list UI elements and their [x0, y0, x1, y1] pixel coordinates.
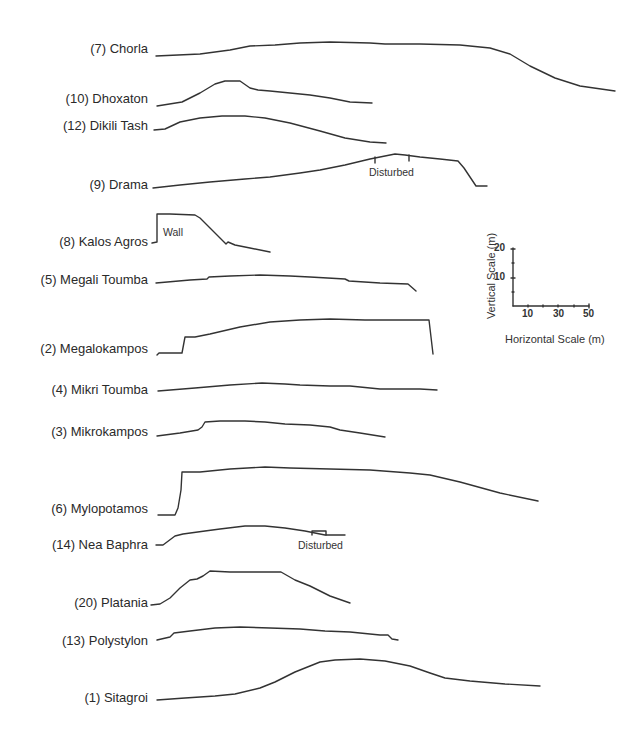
profile-dhoxaton	[157, 81, 372, 106]
scale-htick-label-30: 30	[553, 308, 564, 319]
kalos-agros-wall-label: Wall	[163, 226, 183, 238]
profile-drama	[153, 154, 487, 188]
profiles-figure: (7) Chorla (10) Dhoxaton (12) Dikili Tas…	[0, 0, 642, 744]
profile-chorla	[156, 42, 615, 91]
profile-megali-toumba	[156, 275, 416, 291]
profile-polystylon	[157, 627, 398, 640]
profile-sitagroi	[157, 659, 540, 700]
profile-mikri-toumba	[158, 383, 437, 391]
nea-baphra-disturbed-label: Disturbed	[298, 539, 343, 551]
profile-mylopotamos	[158, 467, 538, 515]
drama-disturbed-label: Disturbed	[369, 166, 414, 178]
scale-htick-label-50: 50	[583, 308, 594, 319]
vertical-scale-label: Vertical Scale (m)	[485, 221, 497, 331]
profile-megalokampos	[157, 319, 433, 355]
scale-htick-label-10: 10	[522, 308, 533, 319]
horizontal-scale-label: Horizontal Scale (m)	[505, 333, 605, 345]
profiles-svg	[0, 0, 642, 744]
profile-platania	[151, 571, 350, 605]
profile-mikrokampos	[157, 421, 385, 437]
profile-dikili-tash	[154, 116, 386, 143]
